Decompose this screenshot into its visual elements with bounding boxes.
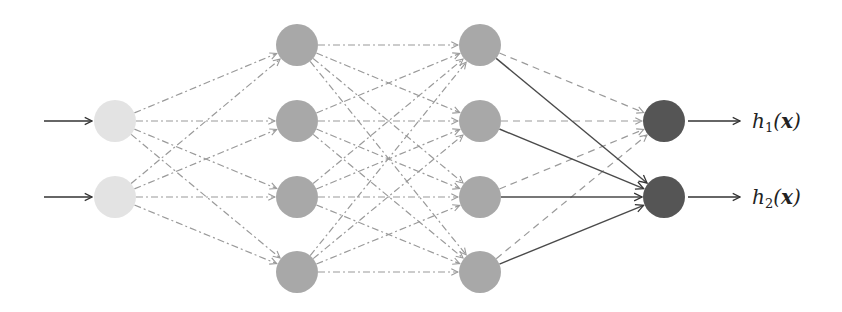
hidden-1-node-1	[276, 24, 318, 66]
neural-network-diagram: h1(x) h2(x)	[0, 0, 842, 312]
output-label-1: h1(x)	[752, 109, 801, 135]
edges-group	[131, 45, 647, 272]
edge-input-hidden1	[134, 53, 276, 112]
input-node-1	[94, 100, 136, 142]
edge-input-hidden1	[131, 134, 280, 258]
edge-hidden2-output1	[499, 53, 643, 113]
output-node-2	[643, 176, 685, 218]
edge-input-hidden1	[134, 205, 276, 264]
output-labels-group: h1(x) h2(x)	[752, 109, 801, 211]
output-label-2: h2(x)	[752, 185, 801, 211]
hidden-2-node-4	[459, 251, 501, 293]
output-node-1	[643, 100, 685, 142]
hidden-1-node-2	[276, 100, 318, 142]
edge-hidden2-output2	[499, 205, 643, 264]
hidden-2-node-3	[459, 176, 501, 218]
hidden-1-node-4	[276, 251, 318, 293]
hidden-1-node-3	[276, 176, 318, 218]
hidden-2-node-2	[459, 100, 501, 142]
hidden-2-node-1	[459, 24, 501, 66]
input-node-2	[94, 176, 136, 218]
edge-hidden1-hidden2	[316, 53, 459, 113]
